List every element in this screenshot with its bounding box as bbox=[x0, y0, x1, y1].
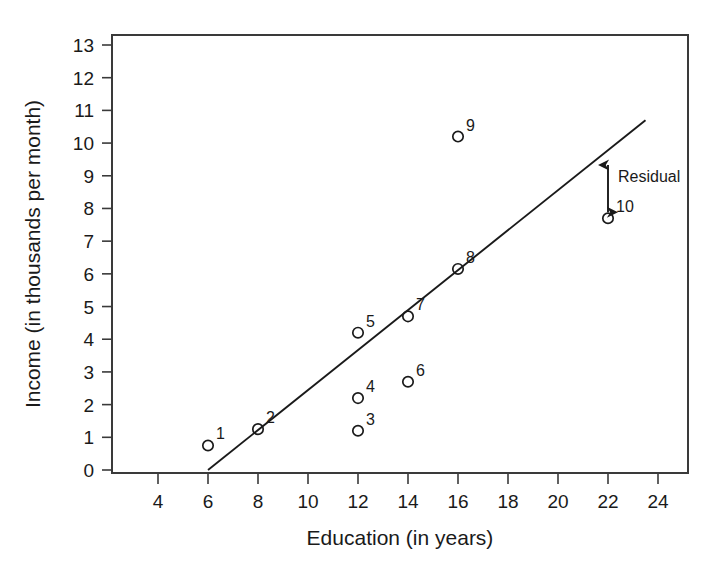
data-point-marker bbox=[453, 131, 463, 141]
x-tick-label: 10 bbox=[297, 491, 318, 512]
x-axis-ticks bbox=[158, 473, 658, 484]
y-tick-label: 3 bbox=[83, 362, 94, 383]
scatter-plot-figure: 012345678910111213 4681012141618202224 R… bbox=[0, 0, 726, 569]
y-tick-label: 10 bbox=[73, 133, 94, 154]
y-tick-label: 7 bbox=[83, 231, 94, 252]
y-tick-label: 6 bbox=[83, 264, 94, 285]
data-point-marker bbox=[403, 377, 413, 387]
data-points: 12345678910 bbox=[203, 117, 634, 451]
data-point-label: 10 bbox=[616, 198, 634, 215]
y-tick-label: 4 bbox=[83, 329, 94, 350]
x-tick-label: 18 bbox=[497, 491, 518, 512]
data-point-label: 4 bbox=[366, 378, 375, 395]
y-tick-label: 11 bbox=[74, 100, 94, 121]
y-tick-label: 8 bbox=[83, 198, 94, 219]
data-point-label: 8 bbox=[466, 249, 475, 266]
plot-canvas: 012345678910111213 4681012141618202224 R… bbox=[0, 0, 726, 569]
x-axis-title: Education (in years) bbox=[307, 526, 494, 549]
data-point-marker bbox=[353, 393, 363, 403]
plot-frame bbox=[112, 35, 688, 473]
y-axis-ticks bbox=[102, 45, 112, 470]
y-tick-label: 5 bbox=[83, 297, 94, 318]
x-axis-tick-labels: 4681012141618202224 bbox=[153, 491, 669, 512]
plot-border bbox=[112, 35, 688, 473]
data-point-label: 3 bbox=[366, 411, 375, 428]
data-point-label: 1 bbox=[216, 425, 225, 442]
y-axis-title: Income (in thousands per month) bbox=[21, 100, 44, 408]
data-point-label: 6 bbox=[416, 362, 425, 379]
x-tick-label: 4 bbox=[153, 491, 164, 512]
x-tick-label: 12 bbox=[347, 491, 368, 512]
y-tick-label: 9 bbox=[83, 166, 94, 187]
x-tick-label: 14 bbox=[397, 491, 419, 512]
x-tick-label: 16 bbox=[447, 491, 468, 512]
data-point-marker bbox=[603, 213, 613, 223]
y-axis-tick-labels: 012345678910111213 bbox=[73, 35, 95, 481]
data-point-label: 5 bbox=[366, 313, 375, 330]
x-tick-label: 6 bbox=[203, 491, 214, 512]
x-tick-label: 24 bbox=[647, 491, 669, 512]
data-point-marker bbox=[403, 311, 413, 321]
x-tick-label: 22 bbox=[597, 491, 618, 512]
y-tick-label: 13 bbox=[73, 35, 94, 56]
residual-label: Residual bbox=[618, 168, 680, 185]
data-point-label: 9 bbox=[466, 117, 475, 134]
data-point-marker bbox=[353, 327, 363, 337]
data-point-marker bbox=[353, 426, 363, 436]
y-tick-label: 12 bbox=[73, 68, 94, 89]
y-tick-label: 1 bbox=[83, 427, 94, 448]
data-point-label: 7 bbox=[416, 296, 425, 313]
data-point-label: 2 bbox=[266, 409, 275, 426]
x-tick-label: 20 bbox=[547, 491, 568, 512]
data-point-marker bbox=[203, 440, 213, 450]
y-tick-label: 0 bbox=[83, 460, 94, 481]
x-tick-label: 8 bbox=[253, 491, 264, 512]
y-tick-label: 2 bbox=[83, 395, 94, 416]
